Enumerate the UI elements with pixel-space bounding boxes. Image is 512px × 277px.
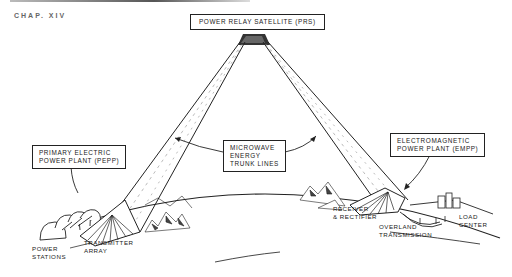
left-microwave-beam: [108, 42, 245, 232]
load-center-icon: [420, 193, 460, 224]
microwave-trunk-lines-box: MICROWAVE ENERGY TRUNK LINES: [223, 140, 286, 172]
pepp-line-1: PRIMARY ELECTRIC: [39, 149, 119, 157]
empp-line-2: POWER PLANT (EMPP): [397, 145, 478, 153]
overland-transmission-label: OVERLAND TRANSMISSION: [379, 223, 432, 238]
diagram-canvas: CHAP. XIV: [0, 0, 512, 277]
mtl-line-2: ENERGY: [230, 152, 279, 160]
primary-electric-power-plant-box: PRIMARY ELECTRIC POWER PLANT (PEPP): [32, 145, 126, 169]
empp-line-1: ELECTROMAGNETIC: [397, 137, 478, 145]
pepp-line-2: POWER PLANT (PEPP): [39, 157, 119, 165]
mtl-line-3: TRUNK LINES: [230, 160, 279, 168]
power-relay-satellite-box: POWER RELAY SATELLITE (PRS): [190, 14, 325, 30]
transmitter-array-label: TRANSMITTER ARRAY: [84, 239, 134, 254]
power-stations-label: POWER STATIONS: [32, 245, 66, 260]
load-center-label: LOAD CENTER: [459, 213, 487, 228]
power-relay-satellite-label: POWER RELAY SATELLITE (PRS): [199, 18, 316, 25]
electromagnetic-power-plant-box: ELECTROMAGNETIC POWER PLANT (EMPP): [390, 133, 485, 157]
satellite-icon: [238, 34, 270, 45]
mtl-line-1: MICROWAVE: [230, 144, 279, 152]
receiver-rectifier-label: RECEIVER & RECTIFIER: [333, 205, 377, 220]
right-microwave-beam: [263, 42, 408, 205]
